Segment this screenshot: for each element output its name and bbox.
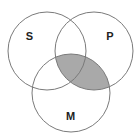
venn-svg: S P M [0, 0, 140, 139]
label-m: M [66, 110, 75, 122]
venn-diagram: S P M [0, 0, 140, 139]
label-p: P [106, 30, 113, 42]
label-s: S [26, 30, 33, 42]
circle-s [8, 12, 86, 90]
